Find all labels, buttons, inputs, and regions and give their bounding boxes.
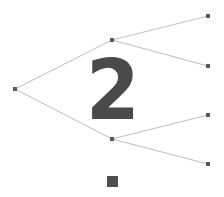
- bottom-square-marker: [107, 176, 118, 187]
- node-leaf-2: [206, 64, 210, 68]
- node-leaf-4: [206, 162, 210, 166]
- node-leaf-1: [206, 14, 210, 18]
- edge-mid-top-leaf-1: [112, 16, 208, 40]
- edge-mid-bottom-leaf-4: [112, 139, 208, 164]
- center-label: 2: [92, 50, 134, 130]
- node-root: [13, 87, 17, 91]
- node-leaf-3: [206, 113, 210, 117]
